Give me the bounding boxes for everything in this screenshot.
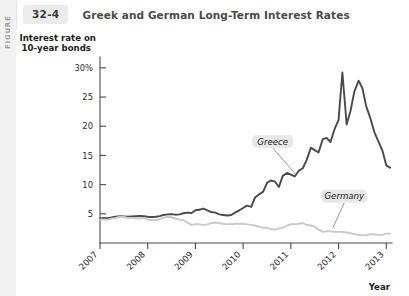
x-tick-label: 2012 (315, 249, 338, 272)
x-tick-label-group: 2008 (125, 249, 148, 272)
y-tick-label: 15 (82, 151, 93, 161)
y-tick-label: 10 (82, 180, 93, 190)
y-tick-label: 20 (82, 121, 93, 131)
series-label-greece: Greece (257, 137, 288, 147)
figure-rail: FIGURE (0, 0, 17, 296)
figure-rail-label: FIGURE (4, 11, 12, 53)
x-tick-label: 2013 (363, 249, 386, 272)
x-tick-label-group: 2013 (363, 249, 386, 272)
series-layer (100, 73, 390, 236)
figure-header: 32-4 Greek and German Long-Term Interest… (16, 0, 409, 29)
x-tick-label: 2011 (268, 249, 291, 272)
x-tick-label-group: 2012 (315, 249, 338, 272)
x-axis-title: Year (368, 282, 391, 292)
x-tick-label: 2008 (125, 249, 148, 272)
x-tick-label-group: 2010 (220, 249, 243, 272)
series-label-germany: Germany (324, 191, 365, 201)
line-chart: GreeceGermany 51015202530%20072008200920… (16, 29, 409, 296)
figure-root: FIGURE 32-4 Greek and German Long-Term I… (0, 0, 409, 296)
y-tick-label: 5 (88, 209, 93, 219)
x-tick-label-group: 2007 (77, 249, 100, 272)
series-line-germany (100, 217, 390, 236)
x-tick-label-group: 2011 (268, 249, 291, 272)
y-axis-title-line1: Interest rate on (19, 33, 96, 43)
x-tick-label: 2009 (172, 249, 195, 272)
chart-panel: GreeceGermany 51015202530%20072008200920… (16, 29, 409, 296)
y-tick-label: 30% (74, 63, 93, 73)
y-tick-label: 25 (82, 92, 93, 102)
x-tick-label: 2010 (220, 249, 243, 272)
callout-leader-greece (273, 148, 297, 175)
x-tick-label: 2007 (77, 249, 100, 272)
x-tick-label-group: 2009 (172, 249, 195, 272)
callout-leader-germany (333, 203, 344, 228)
label-layer: 51015202530%2007200820092010201120122013… (19, 33, 390, 292)
figure-number-badge: 32-4 (23, 5, 68, 25)
y-axis-title-line2: 10-year bonds (22, 43, 91, 53)
axis-layer (100, 57, 392, 249)
figure-title: Greek and German Long-Term Interest Rate… (82, 9, 349, 21)
